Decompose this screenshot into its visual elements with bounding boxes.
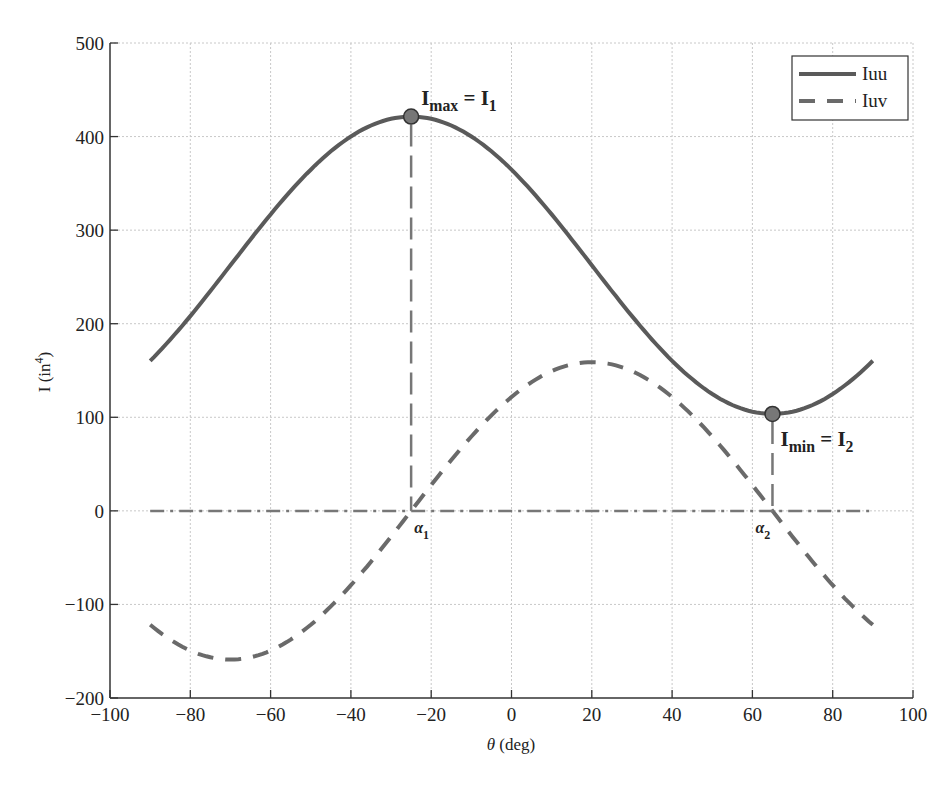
annotation-group: Imax = I1Imin = I2α1α2 <box>414 86 853 542</box>
y-tick-label: 500 <box>76 33 105 54</box>
x-tick-label: −80 <box>175 704 205 725</box>
y-tick-label: 100 <box>76 407 105 428</box>
annotation-imaxi1: Imax = I1 <box>421 86 497 114</box>
x-tick-label: −20 <box>416 704 446 725</box>
x-axis-ticks: −100−80−60−40−20020406080100 <box>90 690 927 725</box>
legend: Iuu Iuv <box>792 56 908 120</box>
x-tick-label: 80 <box>823 704 842 725</box>
x-axis-title: θ (deg) <box>487 735 535 754</box>
x-tick-label: 100 <box>899 704 928 725</box>
x-tick-label: 20 <box>582 704 601 725</box>
y-tick-label: 300 <box>76 220 105 241</box>
x-tick-label: −40 <box>336 704 366 725</box>
x-tick-label: −60 <box>256 704 286 725</box>
legend-label-iuv: Iuv <box>862 90 888 111</box>
legend-box <box>792 56 908 120</box>
y-tick-label: −200 <box>65 688 104 709</box>
y-tick-label: 400 <box>76 127 105 148</box>
annotation-α2: α2 <box>755 519 770 542</box>
x-tick-label: 40 <box>663 704 682 725</box>
grid-lines <box>110 43 913 698</box>
x-tick-label: 0 <box>507 704 517 725</box>
chart: −100−80−60−40−20020406080100 −200−100010… <box>0 0 948 785</box>
x-tick-label: 60 <box>743 704 762 725</box>
annotation-α1: α1 <box>414 519 429 542</box>
y-tick-label: 0 <box>95 501 105 522</box>
series-iuu <box>150 117 873 414</box>
marker-point <box>404 109 419 124</box>
y-tick-label: −100 <box>65 594 104 615</box>
marker-point <box>765 406 780 421</box>
annotation-imini2: Imin = I2 <box>780 427 853 455</box>
legend-label-iuu: Iuu <box>862 63 888 84</box>
y-axis-title: I (in4) <box>32 352 54 392</box>
y-tick-label: 200 <box>76 314 105 335</box>
